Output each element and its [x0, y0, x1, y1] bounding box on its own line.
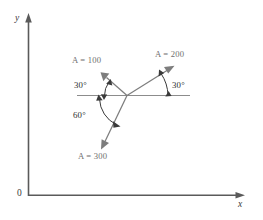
vector-a200-label: A = 200: [155, 50, 184, 59]
angle-left-30-label: 30°: [74, 81, 87, 90]
x-axis-label: x: [238, 200, 242, 210]
vector-a100-shaft: [107, 78, 128, 96]
vector-a300-label: A = 300: [78, 152, 107, 161]
figure-canvas: [0, 0, 263, 220]
angle-right-30-arrowhead-upper: [159, 70, 165, 77]
angle-60-arc: [100, 99, 117, 125]
angle-right-30-arc: [161, 74, 168, 96]
vector-diagram-figure: y x 0 A = 100 A = 200 A = 300 30° 30° 60…: [0, 0, 263, 220]
vector-a100-arrowhead: [101, 72, 110, 81]
y-axis-label: y: [15, 14, 19, 24]
angle-right-30-arc-group: [159, 70, 172, 97]
origin-label: 0: [17, 189, 22, 199]
vector-a200-arrowhead: [164, 66, 175, 74]
angle-right-30-label: 30°: [172, 81, 185, 90]
angle-60-arrowhead-lower: [113, 121, 121, 128]
y-axis-arrowhead: [25, 13, 32, 23]
angle-60-arc-group: [96, 95, 120, 128]
x-axis-arrowhead: [236, 192, 246, 199]
vector-a100-label: A = 100: [72, 56, 101, 65]
angle-60-label: 60°: [73, 111, 86, 120]
angle-left-30-arc-group: [101, 79, 112, 100]
axes-group: [25, 13, 245, 199]
angle-right-30-arrowhead-lower: [165, 91, 171, 97]
